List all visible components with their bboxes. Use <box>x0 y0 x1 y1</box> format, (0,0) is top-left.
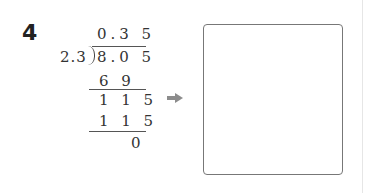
final-remainder: 0 <box>131 136 145 151</box>
page-divider <box>362 0 363 193</box>
divisor: 2.3 <box>60 50 87 65</box>
answer-box[interactable] <box>203 24 343 175</box>
step-line-1 <box>89 89 146 90</box>
quotient: 0.3 5 <box>97 27 155 42</box>
problem-number: 4 <box>22 22 37 44</box>
division-overline <box>92 46 146 47</box>
step-line-2 <box>89 131 146 132</box>
division-bracket <box>88 46 95 65</box>
step-subtrahend-2: 1 1 5 <box>99 114 157 129</box>
step-remainder-1: 1 1 5 <box>99 93 157 108</box>
dividend: 8.0 5 <box>97 50 155 65</box>
right-arrow-icon <box>167 93 183 103</box>
step-subtrahend-1: 6 9 <box>99 74 135 89</box>
